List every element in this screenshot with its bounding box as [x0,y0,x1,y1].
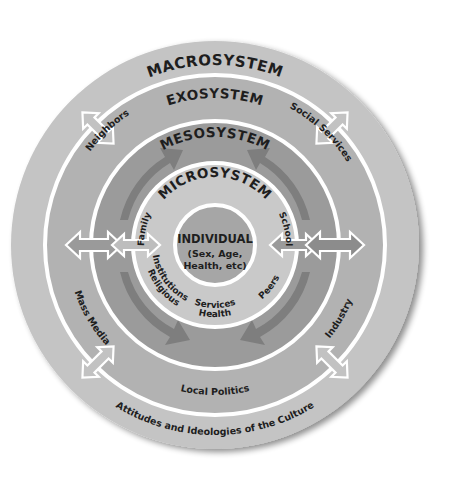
individual-subtitle-2: Health, etc) [183,260,246,271]
individual-title: INDIVIDUAL [177,232,253,246]
individual-subtitle-1: (Sex, Age, [188,248,243,259]
bronfenbrenner-ecological-diagram: MACROSYSTEM EXOSYSTEM MESOSYSTEM MICROSY… [0,0,449,482]
